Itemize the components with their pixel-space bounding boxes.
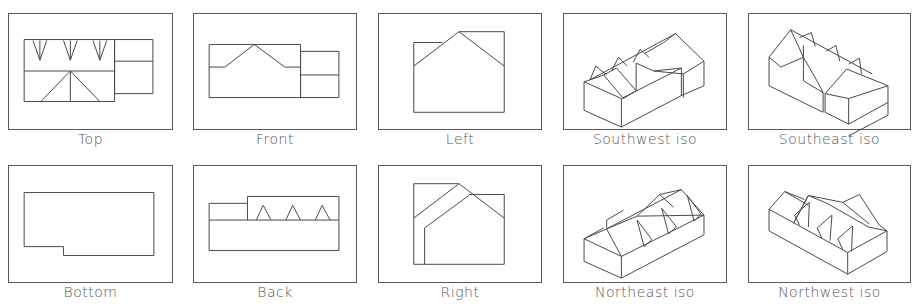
right-view-drawing <box>379 166 541 282</box>
view-label-northeast-iso: Northeast iso <box>563 284 727 300</box>
viewport-frame-back <box>193 165 357 283</box>
viewport-frame-southeast-iso <box>748 13 911 130</box>
viewport-frame-left <box>378 13 542 130</box>
view-label-southeast-iso: Southeast iso <box>748 131 911 147</box>
left-view-drawing <box>379 14 541 129</box>
viewport-frame-right <box>378 165 542 283</box>
southwest-iso-drawing <box>564 14 726 129</box>
view-label-southwest-iso: Southwest iso <box>563 131 727 147</box>
view-label-back: Back <box>193 284 357 300</box>
view-label-northwest-iso: Northwest iso <box>748 284 911 300</box>
northwest-iso-drawing <box>749 166 910 282</box>
viewport-frame-bottom <box>8 165 173 283</box>
view-label-left: Left <box>378 131 542 147</box>
viewport-frame-northeast-iso <box>563 165 727 283</box>
view-label-top: Top <box>8 131 173 147</box>
view-label-front: Front <box>193 131 357 147</box>
viewport-frame-northwest-iso <box>748 165 911 283</box>
viewport-frame-top <box>8 13 173 130</box>
view-label-bottom: Bottom <box>8 284 173 300</box>
viewport-frame-southwest-iso <box>563 13 727 130</box>
viewport-frame-front <box>193 13 357 130</box>
bottom-view-drawing <box>9 166 172 282</box>
front-view-drawing <box>194 14 356 129</box>
southeast-iso-drawing <box>749 14 910 129</box>
back-view-drawing <box>194 166 356 282</box>
view-label-right: Right <box>378 284 542 300</box>
top-view-drawing <box>9 14 172 129</box>
northeast-iso-drawing <box>564 166 726 282</box>
